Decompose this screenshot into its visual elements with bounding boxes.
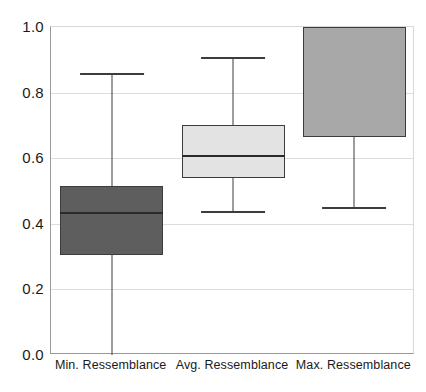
lower-whisker-line — [354, 137, 355, 208]
x-axis-tick-label: Max. Ressemblance — [296, 358, 411, 372]
box-plot-series — [182, 27, 285, 353]
y-axis-tick-label: 0.2 — [4, 280, 44, 297]
median-line — [182, 155, 285, 157]
y-axis-tick-label: 0.6 — [4, 149, 44, 166]
box-plot-chart: 0.00.20.40.60.81.0 Min. RessemblanceAvg.… — [0, 0, 426, 392]
box-iqr-rect — [60, 186, 163, 255]
plot-area — [50, 26, 414, 354]
lower-whisker-line — [233, 178, 234, 211]
lower-whisker-cap — [201, 211, 265, 213]
y-axis-tick-label: 0.4 — [4, 214, 44, 231]
lower-whisker-cap — [322, 207, 386, 209]
box-plot-series — [60, 27, 163, 353]
y-axis: 0.00.20.40.60.81.0 — [0, 0, 44, 392]
lower-whisker-line — [111, 255, 112, 355]
upper-whisker-line — [233, 57, 234, 126]
box-iqr-rect — [303, 27, 406, 137]
x-axis: Min. RessemblanceAvg. RessemblanceMax. R… — [50, 358, 414, 382]
y-axis-tick-label: 0.8 — [4, 83, 44, 100]
y-axis-tick-label: 0.0 — [4, 346, 44, 363]
upper-whisker-cap — [201, 57, 265, 59]
y-axis-tick-label: 1.0 — [4, 18, 44, 35]
x-axis-tick-label: Min. Ressemblance — [55, 358, 166, 372]
upper-whisker-line — [111, 73, 112, 186]
upper-whisker-cap — [80, 73, 144, 75]
box-iqr-rect — [182, 125, 285, 177]
box-plot-series — [303, 27, 406, 353]
x-axis-tick-label: Avg. Ressemblance — [176, 358, 289, 372]
median-line — [60, 212, 163, 214]
